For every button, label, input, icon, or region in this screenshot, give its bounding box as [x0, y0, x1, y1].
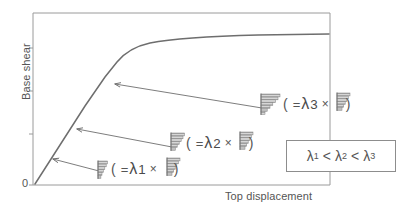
lambda3-symbol: λ [301, 95, 309, 113]
leader-line-lambda3 [115, 84, 262, 108]
y-axis-label: Base shear [20, 43, 32, 100]
legend-lambda3: λ [363, 148, 370, 164]
lambda3-equals: = [293, 97, 301, 112]
annotation-lambda3: ( = λ3 × ) [283, 95, 350, 113]
lambda2-subscript: 2 [213, 136, 220, 151]
lambda2-open-paren: ( [186, 135, 191, 151]
legend-lambda3-sub: 3 [370, 151, 375, 161]
legend-lambda2-sub: 2 [342, 151, 347, 161]
origin-label: 0 [22, 177, 28, 189]
legend-lt-1: < [323, 148, 331, 164]
lambda3-subscript: 3 [310, 97, 317, 112]
lambda3-times: × [322, 97, 329, 111]
lambda-inequality-legend-box: λ1 < λ2 < λ3 [286, 140, 396, 172]
leader-lines [53, 84, 262, 171]
lambda1-equals: = [121, 162, 129, 177]
leader-line-lambda2 [77, 129, 172, 147]
lambda3-open-paren: ( [283, 96, 288, 112]
lambda1-subscript: 1 [138, 162, 145, 177]
pushover-curve-figure: Base shear Top displacement 0 ( = λ1 × )… [0, 0, 401, 215]
leader-line-lambda1 [53, 159, 99, 171]
annotation-lambda1: ( = λ1 × ) [111, 160, 178, 178]
lambda1-open-paren: ( [111, 161, 116, 177]
lambda2-equals: = [196, 136, 204, 151]
load-pattern-icon-lambda3-left [261, 94, 280, 116]
legend-lambda1: λ [307, 148, 314, 164]
lambda1-times: × [150, 162, 157, 176]
legend-lt-2: < [351, 148, 359, 164]
lambda1-close-paren: ) [174, 161, 179, 177]
legend-lambda2: λ [335, 148, 342, 164]
lambda3-close-paren: ) [346, 96, 351, 112]
x-axis-label: Top displacement [225, 190, 312, 202]
legend-lambda1-sub: 1 [314, 151, 319, 161]
lambda1-symbol: λ [129, 160, 137, 178]
load-pattern-icon-lambda2-left [171, 133, 185, 152]
lambda2-times: × [225, 136, 232, 150]
lambda2-symbol: λ [204, 134, 212, 152]
annotation-lambda2: ( = λ2 × ) [186, 134, 253, 152]
lambda2-close-paren: ) [249, 135, 254, 151]
load-pattern-icon-lambda1-left [98, 161, 108, 180]
